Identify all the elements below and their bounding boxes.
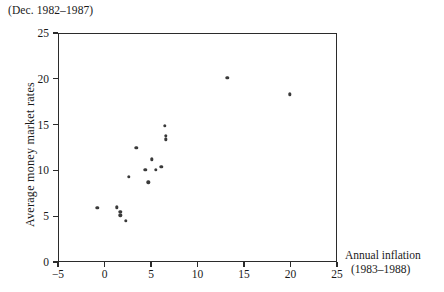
data-points-layer (59, 34, 336, 261)
y-axis-tick (53, 216, 58, 217)
data-point (147, 181, 150, 184)
x-axis-tick-label: 20 (271, 268, 311, 280)
data-point (144, 168, 147, 171)
x-axis-tick (243, 262, 244, 267)
x-axis-label-line1: Annual inflation (345, 249, 421, 261)
data-point (288, 93, 291, 96)
data-point (124, 219, 127, 222)
data-point (95, 206, 98, 209)
chart-title: (Dec. 1982–1987) (8, 4, 93, 16)
x-axis-tick-label: −5 (38, 268, 78, 280)
x-axis-tick (290, 262, 291, 267)
y-axis-tick-label: 0 (9, 256, 49, 268)
data-point (226, 76, 229, 79)
x-axis-label: Annual inflation (1983–1988) (345, 248, 421, 276)
x-axis-tick-label: 15 (224, 268, 264, 280)
scatter-plot-figure: (Dec. 1982–1987) 0510152025 −50510152025… (0, 0, 444, 292)
y-axis-tick (53, 32, 58, 33)
data-point (163, 124, 166, 127)
y-axis-tick (53, 170, 58, 171)
y-axis-label: Average money market rates (23, 55, 38, 255)
y-axis-tick (53, 124, 58, 125)
data-point (119, 214, 122, 217)
y-axis-tick (53, 78, 58, 79)
x-axis-tick (336, 262, 337, 267)
data-point (127, 175, 130, 178)
plot-area (58, 33, 337, 262)
x-axis-tick (150, 262, 151, 267)
y-axis-tick-label: 25 (9, 27, 49, 39)
data-point (134, 146, 137, 149)
data-point (150, 158, 153, 161)
x-axis-tick-label: 5 (131, 268, 171, 280)
data-point (160, 165, 163, 168)
x-axis-tick-label: 10 (178, 268, 218, 280)
data-point (154, 168, 157, 171)
x-axis-tick (197, 262, 198, 267)
data-point (115, 205, 118, 208)
x-axis-tick-label: 0 (85, 268, 125, 280)
x-axis-tick (57, 262, 58, 267)
data-point (164, 138, 167, 141)
x-axis-tick (104, 262, 105, 267)
x-axis-label-line2: (1983–1988) (345, 262, 421, 276)
